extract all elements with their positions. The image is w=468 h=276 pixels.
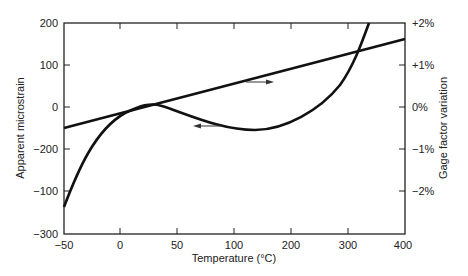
- x-tick-label: −50: [55, 239, 74, 251]
- x-axis-title: Temperature (°C): [192, 252, 276, 264]
- x-tick-label: 400: [394, 239, 412, 251]
- x-tick-labels: −50 0 50 100 200 300 400: [55, 239, 413, 251]
- y2-axis-ticks: [399, 65, 405, 191]
- y2-tick-label: −1%: [412, 143, 435, 155]
- y2-tick-labels: +2% +1% 0% −1% −2%: [412, 17, 435, 197]
- x-tick-label: 200: [282, 239, 300, 251]
- x-tick-label: 300: [339, 239, 357, 251]
- y-tick-label: 0: [52, 101, 58, 113]
- chart: 200 100 0 −200 −100 −300 +2% +1% 0% −1% …: [0, 0, 468, 276]
- y-tick-label: 200: [40, 17, 58, 29]
- y2-tick-label: +2%: [412, 17, 435, 29]
- x-tick-label: 0: [117, 239, 123, 251]
- y2-tick-label: 0%: [412, 101, 428, 113]
- x-tick-label: 50: [171, 239, 183, 251]
- y2-axis-title: Gage factor variation: [437, 77, 449, 179]
- y-tick-label: −100: [33, 185, 58, 197]
- y2-tick-label: −2%: [412, 185, 435, 197]
- x-tick-label: 100: [225, 239, 243, 251]
- y2-tick-label: +1%: [412, 59, 435, 71]
- y-axis-title: Apparent microstrain: [14, 77, 26, 179]
- y-tick-label: −200: [33, 143, 58, 155]
- y-tick-label: 100: [40, 59, 58, 71]
- y-tick-labels: 200 100 0 −200 −100 −300: [33, 17, 58, 240]
- series-gage-factor-line: [64, 39, 405, 128]
